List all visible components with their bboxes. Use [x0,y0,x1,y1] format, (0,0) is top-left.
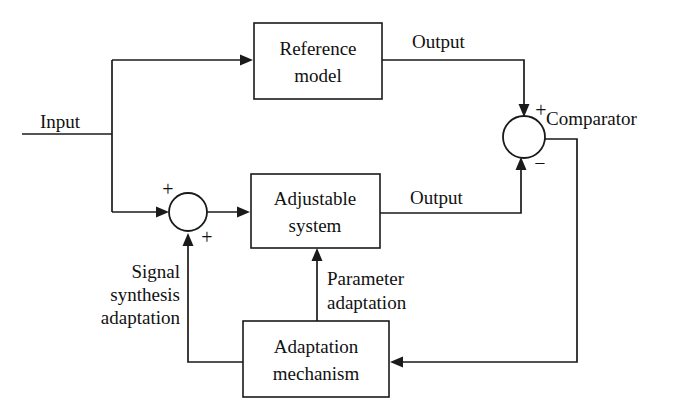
arrowhead-comparator-plus-input [519,104,530,117]
wire-comparator-to-adaptation-mechanism [400,139,577,362]
arrowhead-parameter-adaptation [312,248,323,261]
summing-junction-plus-feedback-sign: + [201,226,212,248]
arrowhead-into-summing-junction [156,207,169,218]
plant-output-label: Output [410,187,464,208]
arrowhead-into-adaptation-mechanism [390,357,403,368]
signal-synthesis-label-line1: Signal [131,261,180,282]
summing-junction-plus-input-sign: + [162,178,173,200]
parameter-adaptation-label-line2: adaptation [327,292,407,313]
arrowhead-signal-synthesis-adaptation [183,233,194,246]
adjustable-system-label-line2: system [289,215,342,236]
reference-model-label-line2: model [294,65,342,86]
reference-model-label-line1: Reference [280,38,357,59]
adaptation-mechanism-label-line2: mechanism [273,363,360,384]
arrowhead-comparator-minus-input [516,157,527,170]
input-label: Input [40,111,81,132]
wire-signal-synthesis-adaptation [188,243,243,362]
signal-synthesis-label-line2: synthesis [110,284,180,305]
parameter-adaptation-label-line1: Parameter [327,268,405,289]
adaptive-control-diagram: Reference model Adjustable system Adapta… [0,0,677,419]
block-adjustable-system[interactable] [251,174,380,248]
comparator-label: Comparator [546,108,637,129]
block-adaptation-mechanism[interactable] [243,321,389,397]
wire-reference-output-to-comparator [382,60,524,108]
comparator-plus-sign: + [535,99,546,121]
comparator-minus-sign: − [534,152,545,174]
adaptation-mechanism-label-line1: Adaptation [274,336,359,357]
adjustable-system-label-line1: Adjustable [274,188,356,209]
arrowhead-into-adjustable-system [237,207,250,218]
block-diagram-canvas: Reference model Adjustable system Adapta… [0,0,677,419]
reference-output-label: Output [412,31,466,52]
arrowhead-into-reference-model [240,55,253,66]
signal-synthesis-label-line3: adaptation [101,307,181,328]
block-reference-model[interactable] [254,23,382,99]
